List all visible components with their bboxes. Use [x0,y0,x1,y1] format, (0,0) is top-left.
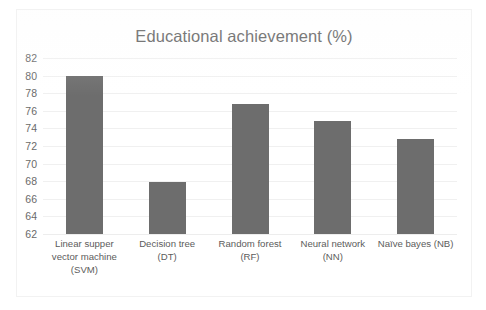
chart-frame: Educational achievement (%) 626466687072… [16,9,472,297]
y-tick-label-70: 70 [25,158,37,169]
bar[interactable] [149,182,186,234]
y-tick-label-82: 82 [25,53,37,64]
bar-series [43,58,457,234]
gridline-62 [43,234,457,235]
x-axis-category-label: Decision tree(DT) [120,237,215,263]
x-axis-category-line: Neural network [285,237,380,250]
y-tick-label-64: 64 [25,211,37,222]
x-axis-category-label: Random forest(RF) [203,237,298,263]
x-axis-category-line: (NN) [285,250,380,263]
bar[interactable] [314,121,351,234]
bar[interactable] [397,139,434,234]
x-axis-category-label: Linear suppervector machine(SVM) [37,237,132,277]
y-tick-label-66: 66 [25,194,37,205]
x-axis-category-line: Linear supper [37,237,132,250]
x-axis-category-line: Naïve bayes (NB) [368,237,463,250]
y-tick-label-78: 78 [25,88,37,99]
x-axis-category-line: Random forest [203,237,298,250]
y-tick-label-80: 80 [25,70,37,81]
x-axis: Linear suppervector machine(SVM)Decision… [43,237,457,293]
y-tick-label-72: 72 [25,141,37,152]
x-axis-category-label: Neural network(NN) [285,237,380,263]
x-axis-category-line: Decision tree [120,237,215,250]
x-axis-category-line: (SVM) [37,263,132,276]
y-tick-label-76: 76 [25,106,37,117]
y-tick-label-68: 68 [25,176,37,187]
y-axis: 6264666870727476788082 [17,58,41,234]
bar[interactable] [232,104,269,234]
x-axis-category-label: Naïve bayes (NB) [368,237,463,250]
chart-title: Educational achievement (%) [17,27,471,46]
x-axis-category-line: (DT) [120,250,215,263]
y-tick-label-62: 62 [25,229,37,240]
y-tick-label-74: 74 [25,123,37,134]
bar[interactable] [66,76,103,234]
x-axis-category-line: vector machine [37,250,132,263]
x-axis-category-line: (RF) [203,250,298,263]
